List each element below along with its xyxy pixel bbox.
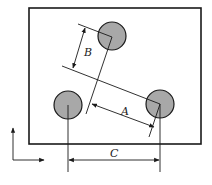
dimension-diagram: B A C <box>0 0 212 185</box>
label-a: A <box>120 105 129 118</box>
hole-top <box>98 22 126 50</box>
label-b: B <box>83 46 92 59</box>
dimension-c <box>68 104 160 172</box>
label-c: C <box>110 147 119 160</box>
dimension-a <box>86 37 160 137</box>
